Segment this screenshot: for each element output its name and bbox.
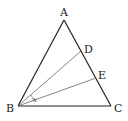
label-c: C <box>114 102 122 115</box>
segment-ab <box>18 20 64 106</box>
segment-bd <box>18 51 81 106</box>
label-a: A <box>59 6 69 19</box>
segment-be <box>18 78 96 106</box>
label-b: B <box>6 102 14 115</box>
angle-label-x: x <box>33 96 37 104</box>
label-e: E <box>98 69 106 82</box>
triangle-diagram: A B C D E x <box>0 0 128 121</box>
label-d: D <box>84 43 93 56</box>
segment-ac <box>64 20 111 106</box>
